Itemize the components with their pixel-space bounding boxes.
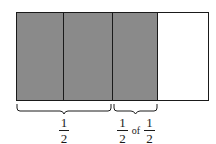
fraction-one-half-first: 1 2: [117, 116, 128, 144]
denominator: 2: [117, 131, 128, 144]
fraction-one-half-second: 1 2: [144, 116, 155, 144]
right-underbrace-icon: [113, 103, 158, 115]
numerator: 1: [117, 116, 128, 130]
fraction-diagram: 1 2 1 2 of 1 2: [0, 0, 216, 144]
right-brace-label: 1 2 of 1 2: [101, 116, 171, 144]
fraction-one-half-left: 1 2: [59, 116, 70, 144]
denominator: 2: [59, 131, 70, 144]
bar-cell-2: [63, 13, 112, 100]
left-underbrace-icon: [16, 103, 112, 115]
bar-cell-4: [157, 13, 208, 100]
bar-cell-3: [112, 13, 157, 100]
operator-of: of: [128, 126, 144, 136]
left-brace-label: 1 2: [16, 116, 112, 144]
fraction-bar-model: [16, 12, 209, 101]
numerator: 1: [59, 116, 70, 130]
bar-cell-1: [17, 13, 63, 100]
denominator: 2: [144, 131, 155, 144]
numerator: 1: [144, 116, 155, 130]
